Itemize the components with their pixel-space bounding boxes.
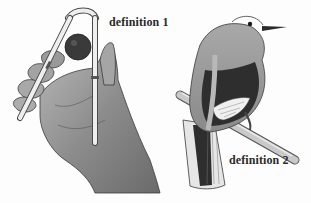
definition-1-label: definition 1 [109, 15, 169, 30]
definition-2-label: definition 2 [229, 153, 289, 168]
illustration-canvas: definition 1 definition 2 [0, 0, 311, 203]
hand-holding-tongs-icon [0, 0, 311, 203]
